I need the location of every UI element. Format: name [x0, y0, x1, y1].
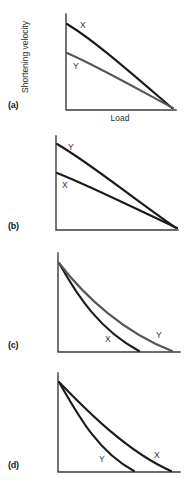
panel-b-curve-x [57, 173, 177, 228]
panel-b-curve-y [57, 144, 176, 228]
panel-tag-a: (a) [8, 100, 18, 110]
panel-b-label-x: X [62, 180, 68, 190]
panel-d: Y X [58, 373, 180, 472]
panel-b: Y X [56, 136, 178, 230]
panel-tag-b: (b) [8, 221, 19, 231]
panel-b-label-y: Y [68, 142, 74, 152]
panel-d-label-y: Y [99, 454, 105, 464]
panel-c-label-x: X [105, 334, 111, 344]
panel-a-label-x: X [80, 20, 86, 30]
panel-a-curve-y [67, 53, 173, 108]
panel-a: X Y [66, 14, 176, 110]
panel-d-axes [58, 373, 180, 472]
panel-a-curve-x [67, 24, 172, 108]
panel-c-label-y: Y [156, 330, 162, 340]
panel-tag-d: (d) [8, 460, 19, 470]
x-axis-label: Load [65, 113, 175, 123]
y-axis-label: Shortening velocity [20, 10, 30, 104]
panel-d-label-x: X [154, 450, 160, 460]
panel-tag-c: (c) [8, 340, 18, 350]
panel-a-label-y: Y [73, 61, 79, 71]
panel-c: X Y [58, 253, 180, 352]
panel-d-curve-y [59, 382, 134, 471]
